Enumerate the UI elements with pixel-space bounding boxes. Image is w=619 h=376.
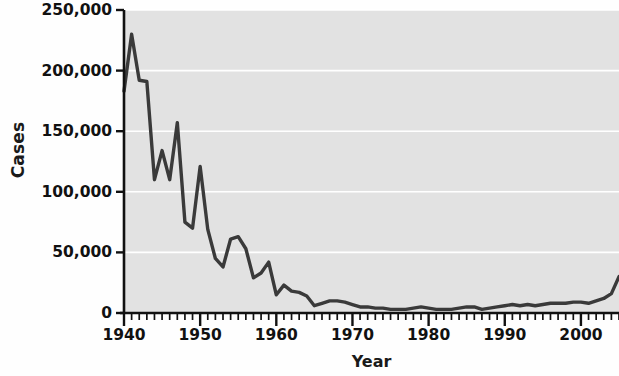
y-axis-tick-label: 250,000 xyxy=(4,1,112,19)
x-axis-tick-label: 2000 xyxy=(559,326,602,344)
y-axis-tick-label: 100,000 xyxy=(4,183,112,201)
y-axis-tick-labels: 050,000100,000150,000200,000250,000 xyxy=(0,0,112,376)
x-axis-tick-label: 1960 xyxy=(255,326,298,344)
y-axis-tick-label: 50,000 xyxy=(4,243,112,261)
x-axis-title: Year xyxy=(124,352,619,371)
x-axis-tick-label: 1980 xyxy=(407,326,450,344)
x-axis-ticks xyxy=(124,313,619,326)
y-axis-tick-label: 0 xyxy=(4,304,112,322)
x-axis-tick-labels: 1940195019601970198019902000 xyxy=(0,326,619,352)
x-axis-tick-label: 1950 xyxy=(179,326,222,344)
chart-figure: Cases 050,000100,000150,000200,000250,00… xyxy=(0,0,619,376)
x-axis-tick-label: 1970 xyxy=(331,326,374,344)
y-axis-tick-label: 200,000 xyxy=(4,62,112,80)
x-axis-tick-label: 1940 xyxy=(102,326,145,344)
plot-background xyxy=(124,10,619,313)
x-axis-tick-label: 1990 xyxy=(483,326,526,344)
y-axis-tick-label: 150,000 xyxy=(4,122,112,140)
